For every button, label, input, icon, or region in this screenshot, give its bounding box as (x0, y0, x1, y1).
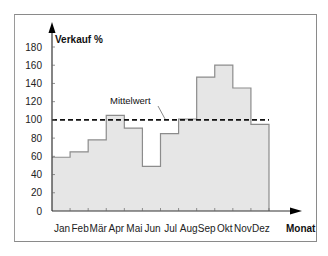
y-tick-label: 20 (31, 187, 43, 198)
y-tick-label: 80 (31, 133, 43, 144)
x-ticks: JanFebMärAprMaiJunJulAugSepOktNovDez (54, 208, 270, 234)
y-tick-label: 60 (31, 151, 43, 162)
y-tick-label: 100 (25, 114, 42, 125)
x-tick-label: Aug (180, 223, 198, 234)
y-tick-label: 180 (25, 42, 42, 53)
x-axis-title: Monat (286, 223, 316, 234)
x-tick-label: Jun (144, 223, 160, 234)
x-tick-label: Mär (90, 223, 108, 234)
x-tick-label: Dez (252, 223, 270, 234)
y-axis-arrow-icon (49, 22, 56, 33)
y-ticks: 020406080100120140160180 (25, 42, 55, 217)
x-tick-label: Sep (198, 223, 216, 234)
x-tick-label: Nov (234, 223, 252, 234)
x-tick-label: Jan (54, 223, 70, 234)
x-tick-label: Mai (126, 223, 142, 234)
mean-label-leader (158, 106, 165, 119)
mean-label: Mittelwert (110, 95, 151, 106)
step-chart: Mittelwert 020406080100120140160180 JanF… (0, 0, 328, 256)
x-axis-arrow-icon (290, 208, 302, 215)
y-tick-label: 140 (25, 78, 42, 89)
y-axis-title: Verkauf % (55, 34, 103, 45)
x-tick-label: Apr (109, 223, 125, 234)
y-tick-label: 120 (25, 96, 42, 107)
y-tick-label: 0 (36, 206, 42, 217)
x-tick-label: Jul (164, 223, 177, 234)
x-tick-label: Okt (217, 223, 233, 234)
y-tick-label: 160 (25, 60, 42, 71)
y-tick-label: 40 (31, 169, 43, 180)
x-tick-label: Feb (72, 223, 90, 234)
